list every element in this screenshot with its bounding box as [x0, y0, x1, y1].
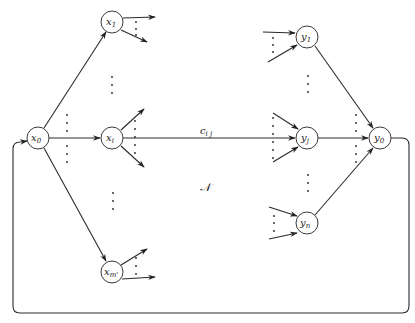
edge-x1-out-1 — [123, 17, 155, 18]
node-yj: yj — [296, 127, 318, 149]
edge-x0-xm — [44, 148, 106, 261]
ellipsis-x0-upper — [66, 114, 68, 132]
edge-xm-out-1 — [121, 249, 147, 265]
ellipsis-xi — [134, 120, 136, 154]
edge-in-yn-2 — [269, 233, 297, 239]
node-y0: y0 — [369, 127, 391, 149]
edge-y1-y0 — [315, 46, 373, 128]
edge-in-yj-down — [273, 147, 298, 162]
edge-xm-out-2 — [122, 277, 155, 279]
ellipsis-y1 — [272, 37, 274, 53]
edge-xi-out-up — [121, 109, 144, 130]
edge-x1-out-2 — [121, 30, 147, 42]
node-x1: x1 — [101, 11, 123, 33]
ellipsis-x1 — [135, 21, 137, 36]
ellipsis-y-column-lower — [307, 174, 309, 192]
ellipsis-xm — [135, 257, 137, 275]
node-yn: yn — [296, 212, 318, 234]
ellipsis-y-column-upper — [307, 75, 309, 93]
node-y1: y1 — [296, 26, 318, 48]
edge-label-cij: ci j — [200, 125, 213, 138]
ellipsis-x-column-upper — [111, 76, 113, 94]
node-xi: xi — [101, 127, 123, 149]
edge-xi-out-down — [121, 146, 144, 167]
edge-in-yj-up — [273, 113, 298, 129]
network-label: 𝒩 — [200, 181, 214, 194]
edge-in-y1-2 — [268, 45, 297, 62]
ellipsis-yn — [273, 215, 275, 232]
edge-yn-y0 — [315, 148, 373, 215]
edge-x0-x1 — [44, 32, 106, 128]
ellipsis-x-column-lower — [112, 192, 114, 210]
edge-in-yn-1 — [269, 207, 297, 216]
return-loop-edge — [13, 138, 409, 313]
node-x0: x0 — [27, 127, 49, 149]
flow-network-diagram: ci j 𝒩 x0 x1 xi — [0, 0, 415, 323]
edge-in-y1-1 — [263, 32, 295, 33]
node-xm-prime: xm' — [101, 261, 123, 283]
ellipsis-x0-lower — [66, 145, 68, 163]
